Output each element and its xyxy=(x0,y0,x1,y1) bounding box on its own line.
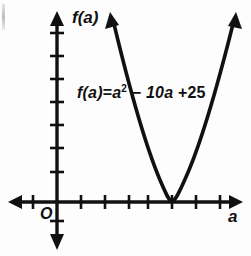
equation-lhs: f(a) xyxy=(77,84,103,101)
equation-exponent: 2 xyxy=(121,83,127,94)
curve-left-arrowhead xyxy=(105,12,119,29)
y-axis-label: f(a) xyxy=(72,9,98,26)
y-axis-bottom-arrowhead xyxy=(50,234,64,250)
x-axis-left-arrowhead xyxy=(8,195,22,209)
graph-canvas xyxy=(0,0,251,256)
parabola-curve xyxy=(105,12,242,202)
origin-label: O xyxy=(40,206,52,222)
equation-linear-term: 10a xyxy=(146,84,173,101)
equation-minus: − xyxy=(132,84,142,101)
parabola-figure: f(a) a O f(a)=a2 − 10a +25 xyxy=(0,0,251,256)
y-axis-top-arrowhead xyxy=(50,11,64,26)
equation-equals: = xyxy=(103,84,113,101)
curve-right-arrowhead xyxy=(228,12,242,29)
equation-constant: 25 xyxy=(187,84,205,101)
equation-base: a xyxy=(112,84,121,101)
x-axis-label: a xyxy=(228,208,237,225)
equation-annotation: f(a)=a2 − 10a +25 xyxy=(77,85,206,101)
